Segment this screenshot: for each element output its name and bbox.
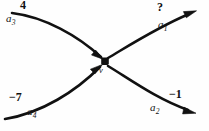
arc-a1-label-subscript: 1	[164, 24, 168, 33]
vertex-dot	[101, 58, 109, 65]
arc-a1-label: a1	[158, 19, 167, 30]
arc-a3	[12, 13, 104, 59]
arc-a1-value: ?	[157, 1, 163, 13]
arc-a2-label-base: a	[150, 101, 156, 113]
arc-a1	[108, 11, 197, 58]
arc-a3-label-subscript: 3	[12, 18, 16, 27]
arc-a4-label-subscript: 4	[33, 111, 37, 120]
arc-a3-label-base: a	[6, 12, 12, 24]
arc-a4-label-base: a	[27, 105, 33, 117]
arc-a4-label: a4	[27, 106, 36, 117]
arc-a3-value: 4	[20, 0, 26, 11]
arc-a2-value: −1	[169, 88, 182, 100]
vertex-label: v	[99, 66, 103, 75]
arc-a2-arrowhead	[183, 107, 196, 114]
vertex-v	[101, 58, 109, 65]
arc-a3-curve	[12, 13, 101, 57]
arc-a4-value: −7	[9, 91, 22, 103]
arc-a1-label-base: a	[158, 18, 164, 30]
arc-a2-label-subscript: 2	[156, 107, 160, 116]
flow-diagram-canvas: 4 a3 −7 a4 ? a1 −1 a2 v	[0, 0, 209, 131]
arc-a2-label: a2	[150, 102, 159, 113]
arc-a1-curve	[108, 14, 189, 58]
arc-a3-label: a3	[6, 13, 15, 24]
